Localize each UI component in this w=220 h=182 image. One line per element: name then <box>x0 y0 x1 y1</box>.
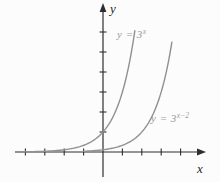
x-axis-arrow-icon <box>197 149 206 156</box>
y-axis-arrow-icon <box>100 3 107 12</box>
curve2-equation-label: y = 3x−2 <box>151 113 189 124</box>
curve-1-path <box>16 31 135 152</box>
curve2-equation-exponent: x−2 <box>177 111 189 120</box>
x-axis-label: x <box>197 162 203 175</box>
curve1-equation-exponent: x <box>143 27 146 36</box>
curve-2-path <box>84 42 172 151</box>
curve2-equation-base: y = 3 <box>151 112 177 124</box>
y-axis-label: y <box>110 2 116 15</box>
curve1-equation-label: y = 3x <box>117 29 146 40</box>
exponential-curves-plot <box>0 0 220 182</box>
curve1-equation-base: y = 3 <box>117 28 143 40</box>
exponential-functions-figure: y x y = 3x y = 3x−2 <box>0 0 220 182</box>
